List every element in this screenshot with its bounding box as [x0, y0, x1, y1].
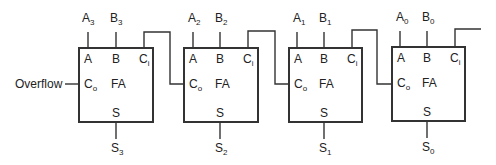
port-b: B — [320, 53, 328, 65]
port-s: S — [423, 106, 431, 118]
port-b: B — [216, 53, 224, 65]
port-co: Co — [189, 78, 202, 95]
overflow-label: Overflow — [15, 78, 62, 90]
port-a: A — [84, 53, 92, 65]
port-s: S — [216, 107, 224, 119]
input-a2: A2 — [188, 12, 200, 29]
port-a: A — [189, 53, 197, 65]
output-s2: S2 — [215, 142, 227, 159]
port-b: B — [423, 52, 431, 64]
input-a0: A0 — [396, 11, 408, 28]
port-ci: Ci — [139, 53, 149, 70]
fa-label: FA — [215, 78, 230, 90]
port-b: B — [112, 53, 120, 65]
output-s0: S0 — [422, 141, 434, 158]
port-ci: Ci — [243, 53, 253, 70]
input-b1: B1 — [319, 12, 331, 29]
input-b3: B3 — [110, 12, 122, 29]
output-s1: S1 — [319, 142, 331, 159]
output-s3: S3 — [111, 142, 123, 159]
port-ci: Ci — [347, 53, 357, 70]
fa-label: FA — [422, 77, 437, 89]
fa-label: FA — [319, 78, 334, 90]
port-s: S — [320, 107, 328, 119]
port-co: Co — [294, 78, 307, 95]
port-co: Co — [84, 78, 97, 95]
input-b2: B2 — [215, 12, 227, 29]
input-b0: B0 — [422, 11, 434, 28]
port-s: S — [112, 107, 120, 119]
port-a: A — [294, 53, 302, 65]
port-a: A — [397, 52, 405, 64]
input-a3: A3 — [82, 12, 94, 29]
fa-label: FA — [111, 78, 126, 90]
input-a1: A1 — [293, 12, 305, 29]
port-ci: Ci — [450, 52, 460, 69]
port-co: Co — [397, 77, 410, 94]
